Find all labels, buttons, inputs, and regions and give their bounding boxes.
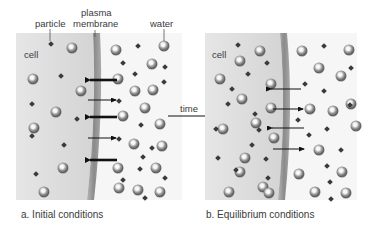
caption-panel-b: b. Equilibrium conditions [206,209,314,220]
label-time: time [180,104,198,114]
caption-panel-a: a. Initial conditions [21,209,103,220]
label-cell-a: cell [24,50,38,60]
panel-a [16,29,182,201]
label-membrane: membrane [73,19,118,29]
label-water: water [150,19,173,29]
panel-b [205,33,362,202]
label-particle: particle [35,19,66,29]
label-cell-b: cell [212,50,226,60]
label-plasma: plasma [81,8,112,18]
osmosis-diagram [0,0,373,228]
